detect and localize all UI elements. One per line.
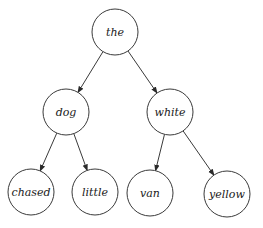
- node-label: chased: [12, 186, 51, 199]
- edge-dog-to-chased-arrow: [40, 133, 57, 171]
- nodes-group: thedogwhitechasedlittlevanyellow: [8, 9, 250, 217]
- node-label: yellow: [208, 188, 245, 201]
- tree-node-the: the: [92, 9, 138, 55]
- node-label: the: [106, 26, 125, 39]
- tree-node-dog: dog: [43, 89, 89, 135]
- node-label: van: [140, 187, 160, 200]
- tree-node-little: little: [72, 169, 118, 215]
- tree-node-yellow: yellow: [204, 171, 250, 217]
- edge-the-to-dog-arrow: [78, 52, 103, 93]
- tree-node-chased: chased: [8, 169, 54, 215]
- edge-dog-to-little-arrow: [74, 134, 87, 171]
- edge-the-to-white-arrow: [128, 51, 157, 93]
- edge-white-to-van-arrow: [156, 134, 165, 170]
- node-label: white: [155, 106, 186, 119]
- edge-white-to-yellow-arrow: [183, 131, 214, 175]
- node-label: little: [82, 186, 108, 199]
- tree-node-van: van: [127, 170, 173, 216]
- node-label: dog: [56, 106, 77, 119]
- tree-node-white: white: [147, 89, 193, 135]
- tree-diagram: thedogwhitechasedlittlevanyellow: [0, 0, 263, 228]
